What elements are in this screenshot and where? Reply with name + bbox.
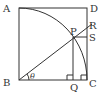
label-d: D	[90, 3, 98, 14]
label-b: B	[3, 77, 10, 88]
label-r: R	[89, 20, 97, 31]
label-c: C	[89, 78, 97, 89]
label-p: P	[70, 26, 77, 37]
right-angle-marker-c	[81, 75, 87, 80]
quarter-arc-ac	[19, 8, 87, 80]
label-s: S	[89, 32, 96, 43]
angle-arc-theta	[27, 74, 29, 80]
label-theta: θ	[30, 72, 35, 81]
square-abcd	[19, 8, 87, 80]
right-angle-marker-q	[67, 75, 73, 80]
label-q: Q	[70, 82, 78, 93]
label-a: A	[2, 3, 11, 14]
geometry-figure: A D B C P Q R S θ	[0, 0, 101, 104]
